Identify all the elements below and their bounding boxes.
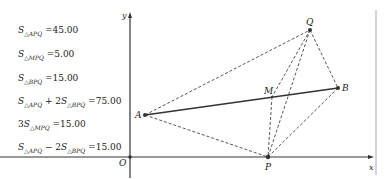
point-A[interactable] [143, 113, 147, 117]
label-A: A [134, 110, 142, 120]
origin-point [128, 155, 132, 159]
formula-difference: S△APQ − 2S△BPQ =15.00 [18, 142, 121, 154]
label-B: B [341, 83, 349, 93]
label-M: M [263, 86, 274, 96]
point-Q[interactable] [308, 28, 312, 32]
origin-label: O [119, 158, 127, 168]
label-P: P [264, 162, 272, 172]
segment-AB [145, 88, 338, 115]
formula-area-BPQ: S△BPQ =15.00 [18, 73, 78, 85]
segment-BP [268, 88, 338, 157]
segment-QB [310, 30, 338, 88]
segment-AP [145, 115, 268, 157]
formula-area-MPQ: S△MPQ =5.00 [18, 49, 74, 61]
x-axis-arrow-icon [368, 155, 374, 159]
formula-triple-MPQ: 3S△MPQ =15.00 [18, 119, 86, 131]
y-axis-arrow-icon [128, 12, 132, 18]
segment-MP [268, 97, 272, 157]
point-M[interactable] [271, 96, 273, 98]
dashed-segments [145, 30, 338, 157]
formula-area-APQ: S△APQ =45.00 [18, 25, 78, 37]
point-P[interactable] [266, 155, 270, 159]
x-axis-label: x [369, 163, 374, 172]
y-axis-label: y [121, 11, 127, 20]
geometry-canvas: x y O A B Q P M S△APQ =45.00 S [0, 0, 385, 179]
formula-sum: S△APQ + 2S△BPQ =75.00 [18, 96, 121, 108]
segment-AQ [145, 30, 310, 115]
point-B[interactable] [336, 86, 340, 90]
label-Q: Q [306, 17, 314, 27]
